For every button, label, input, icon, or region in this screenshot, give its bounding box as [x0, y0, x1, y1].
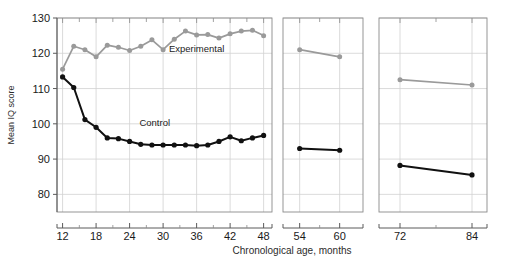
data-point — [261, 33, 266, 38]
chart-container: 8090100110120130Mean IQ score12182430364… — [0, 0, 506, 272]
x-axis-tick-label: 36 — [190, 230, 202, 242]
series-annotation-control: Control — [139, 117, 170, 128]
series-line — [400, 165, 472, 175]
data-point — [149, 37, 154, 42]
series-line — [400, 80, 472, 85]
y-axis-tick-label: 100 — [32, 118, 50, 130]
data-point — [93, 125, 98, 130]
y-axis-tick-label: 90 — [38, 153, 50, 165]
y-axis-tick-label: 110 — [32, 83, 50, 95]
data-point — [60, 74, 65, 79]
data-point — [138, 142, 143, 147]
data-point — [337, 54, 342, 59]
data-point — [71, 44, 76, 49]
series-line — [300, 149, 340, 151]
iq-score-line-chart: 8090100110120130Mean IQ score12182430364… — [0, 0, 506, 272]
data-point — [250, 28, 255, 33]
x-axis-tick-label: 42 — [224, 230, 236, 242]
data-point — [216, 139, 221, 144]
data-point — [183, 29, 188, 34]
series-experimental — [60, 28, 474, 88]
panel-frame-3 — [379, 18, 487, 212]
data-point — [127, 139, 132, 144]
data-point — [297, 146, 302, 151]
data-point — [127, 48, 132, 53]
data-point — [105, 135, 110, 140]
data-point — [297, 47, 302, 52]
data-point — [194, 32, 199, 37]
data-point — [216, 36, 221, 41]
data-point — [239, 138, 244, 143]
data-point — [105, 43, 110, 48]
data-point — [337, 148, 342, 153]
series-control — [60, 74, 475, 177]
data-point — [205, 142, 210, 147]
x-axis-title: Chronological age, months — [233, 245, 352, 256]
data-point — [138, 44, 143, 49]
y-axis-tick-label: 130 — [32, 12, 50, 24]
data-point — [250, 135, 255, 140]
x-axis-tick-label: 30 — [157, 230, 169, 242]
data-point — [116, 136, 121, 141]
data-point — [183, 142, 188, 147]
data-point — [228, 134, 233, 139]
data-point — [398, 77, 403, 82]
data-point — [205, 32, 210, 37]
x-axis-tick-label: 72 — [394, 230, 406, 242]
data-point — [94, 54, 99, 59]
series-annotation-experimental: Experimental — [169, 43, 224, 54]
data-point — [149, 142, 154, 147]
x-axis-tick-label: 84 — [466, 230, 478, 242]
data-point — [161, 47, 166, 52]
x-axis-tick-label: 48 — [257, 230, 269, 242]
data-point — [194, 143, 199, 148]
x-axis-tick-label: 18 — [90, 230, 102, 242]
x-axis-tick-label: 60 — [334, 230, 346, 242]
data-point — [172, 142, 177, 147]
x-axis-tick-label: 54 — [294, 230, 306, 242]
data-point — [161, 142, 166, 147]
x-axis-tick-label: 24 — [123, 230, 135, 242]
panel-frame-1 — [57, 18, 272, 212]
data-point — [469, 172, 474, 177]
panel-frame-2 — [283, 18, 363, 212]
data-point — [470, 83, 475, 88]
data-point — [228, 31, 233, 36]
data-point — [172, 37, 177, 42]
y-axis-tick-label: 120 — [32, 47, 50, 59]
data-point — [261, 133, 266, 138]
data-point — [397, 163, 402, 168]
data-point — [60, 67, 65, 72]
y-axis-title: Mean IQ score — [6, 85, 16, 144]
data-point — [71, 85, 76, 90]
data-point — [82, 117, 87, 122]
data-point — [116, 45, 121, 50]
data-point — [82, 47, 87, 52]
y-axis-tick-label: 80 — [38, 188, 50, 200]
x-axis-tick-label: 12 — [56, 230, 68, 242]
data-point — [239, 29, 244, 34]
